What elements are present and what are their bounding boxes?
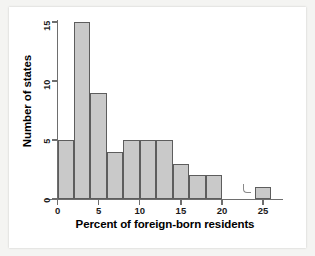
histogram-bar bbox=[255, 187, 271, 199]
scan-artifact-mark bbox=[243, 184, 251, 193]
y-tick-label-15: 15 bbox=[42, 21, 52, 45]
x-axis-title: Percent of foreign-born residents bbox=[40, 218, 290, 230]
x-tick-label-25: 25 bbox=[252, 205, 274, 216]
y-tick-label-10: 10 bbox=[42, 80, 52, 104]
plot-area: 051015 0510152025 Percent of foreign-bor… bbox=[0, 0, 315, 256]
histogram-bar bbox=[58, 140, 74, 199]
histogram-figure: 051015 0510152025 Percent of foreign-bor… bbox=[0, 0, 315, 256]
x-tick-label-0: 0 bbox=[47, 205, 69, 216]
histogram-bar bbox=[107, 152, 123, 199]
y-tick-10 bbox=[52, 80, 57, 81]
x-tick-label-15: 15 bbox=[170, 205, 192, 216]
histogram-bar bbox=[173, 164, 189, 199]
y-tick-5 bbox=[52, 139, 57, 140]
histogram-bar bbox=[140, 140, 156, 199]
histogram-bar bbox=[90, 93, 106, 199]
histogram-bar bbox=[189, 175, 205, 199]
histogram-bar bbox=[156, 140, 172, 199]
y-axis-title: Number of states bbox=[21, 46, 33, 156]
y-tick-15 bbox=[52, 21, 57, 22]
histogram-bar bbox=[206, 175, 222, 199]
histogram-bar bbox=[123, 140, 139, 199]
x-tick-label-20: 20 bbox=[211, 205, 233, 216]
histogram-bar bbox=[74, 22, 90, 199]
x-tick-label-10: 10 bbox=[129, 205, 151, 216]
x-tick-label-5: 5 bbox=[88, 205, 110, 216]
y-tick-label-5: 5 bbox=[42, 139, 52, 163]
x-axis-line bbox=[45, 199, 283, 200]
